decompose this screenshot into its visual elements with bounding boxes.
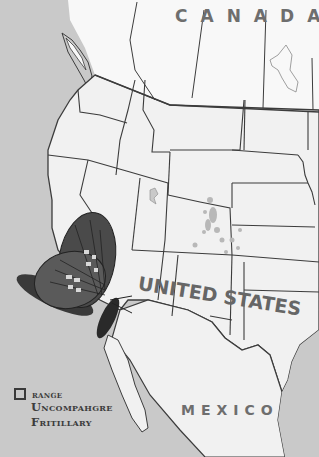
legend-range-label: range: [32, 389, 62, 400]
legend-species-line2: Fritillary: [31, 415, 113, 430]
range-map: CANADA UNITED STATES MEXICO range Uncomp…: [0, 0, 319, 457]
label-mexico: MEXICO: [181, 402, 279, 418]
legend: range Uncompahgre Fritillary: [14, 388, 113, 430]
range-swatch-icon: [14, 388, 26, 400]
legend-species-line1: Uncompahgre: [31, 400, 113, 415]
label-canada: CANADA: [175, 6, 319, 26]
